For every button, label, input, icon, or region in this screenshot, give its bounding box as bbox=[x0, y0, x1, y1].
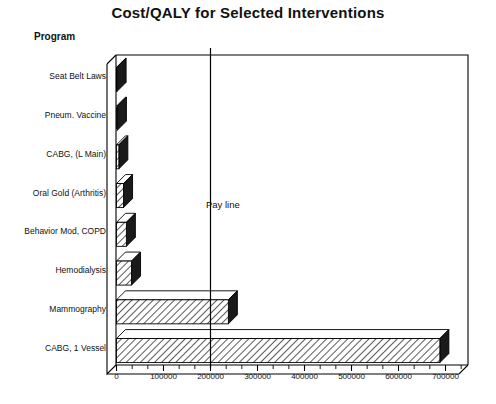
bar-front-face bbox=[117, 300, 229, 324]
bar-front-face bbox=[117, 184, 124, 208]
plot-area bbox=[0, 0, 496, 404]
bar-front-face bbox=[117, 339, 440, 363]
x-axis-tick-label: 600000 bbox=[385, 372, 412, 381]
x-axis-tick-label: 300000 bbox=[244, 372, 271, 381]
x-axis-ticks bbox=[117, 365, 462, 371]
bar-top-face bbox=[117, 291, 238, 300]
x-axis-tick-label: 700000 bbox=[432, 372, 459, 381]
bar-side-face bbox=[117, 58, 126, 91]
x-axis-tick-label: 400000 bbox=[291, 372, 318, 381]
bar-side-face bbox=[117, 97, 126, 130]
bar bbox=[117, 58, 127, 91]
pay-line-label: Pay line bbox=[206, 199, 240, 210]
chart-frame bbox=[107, 55, 468, 374]
bar-front-face bbox=[117, 106, 118, 130]
x-axis-tick-label: 100000 bbox=[150, 372, 177, 381]
bar bbox=[117, 252, 141, 285]
bar-front-face bbox=[117, 261, 132, 285]
x-axis-tick-label: 500000 bbox=[338, 372, 365, 381]
depth-edge-top bbox=[107, 55, 116, 64]
x-axis-tick-label: 0 bbox=[114, 372, 118, 381]
depth-edge-left bbox=[107, 64, 116, 374]
bar bbox=[117, 330, 449, 363]
bar bbox=[117, 97, 127, 130]
bar-top-face bbox=[117, 330, 449, 339]
bar bbox=[117, 213, 136, 246]
bar-series bbox=[117, 58, 449, 362]
bar bbox=[117, 175, 133, 208]
bar-front-face bbox=[117, 67, 118, 91]
bar bbox=[117, 291, 238, 324]
x-axis-tick-label: 200000 bbox=[197, 372, 224, 381]
bar bbox=[117, 136, 128, 169]
bar-front-face bbox=[117, 145, 119, 169]
bar-front-face bbox=[117, 222, 127, 246]
